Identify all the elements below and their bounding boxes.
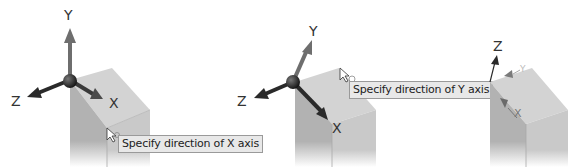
z-axis-label: Z: [493, 39, 503, 53]
z-axis-label: Z: [11, 94, 21, 108]
y-axis-label: Y: [520, 62, 526, 76]
origin-ball: [286, 75, 300, 89]
origin-ball: [63, 74, 77, 88]
panel-result-axes: Z Y X: [420, 0, 579, 167]
y-axis-arrow: [64, 28, 76, 80]
z-axis-arrow: [490, 55, 499, 82]
block-3d-view: [420, 0, 579, 167]
y-axis-label: Y: [309, 24, 318, 38]
x-axis-label: X: [514, 107, 522, 121]
z-axis-label: Z: [237, 94, 247, 108]
y-axis-label: Y: [64, 8, 73, 22]
x-axis-label: X: [109, 96, 119, 110]
x-axis-label: X: [332, 121, 342, 135]
